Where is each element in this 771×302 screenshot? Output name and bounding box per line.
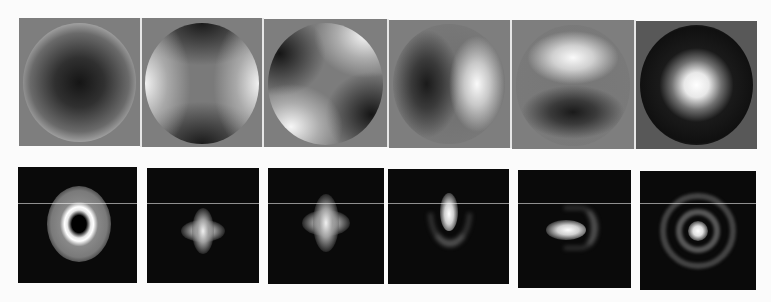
- phase-map-defocus: [19, 18, 140, 146]
- psf-halo: [47, 186, 111, 262]
- psf-core: [440, 193, 458, 231]
- pupil-disk: [268, 23, 383, 145]
- phase-map-spherical: [636, 21, 757, 149]
- psf-astigmatism-0: [147, 168, 259, 283]
- psf-defocus: [18, 167, 137, 283]
- scan-line: [388, 203, 509, 204]
- psf-core: [546, 220, 586, 240]
- psf-coma-y: [388, 169, 509, 284]
- scan-line: [518, 203, 631, 204]
- psf-astigmatism-45: [268, 168, 384, 284]
- phase-map-coma-y: [512, 20, 634, 149]
- phase-map-astigmatism-0: [142, 18, 262, 147]
- scan-line: [640, 203, 756, 204]
- scan-line: [268, 203, 384, 204]
- pupil-disk: [393, 24, 505, 144]
- phase-map-astigmatism-45: [264, 19, 387, 147]
- scan-line: [18, 203, 137, 204]
- pupil-disk: [23, 23, 136, 142]
- pupil-disk: [516, 25, 630, 146]
- psf-coma-x: [518, 170, 631, 288]
- phase-map-coma-x: [389, 20, 510, 148]
- scan-line: [147, 203, 259, 204]
- pupil-disk: [640, 25, 753, 145]
- psf-core: [688, 221, 708, 241]
- psf-cross-vertical: [192, 208, 214, 254]
- psf-spherical: [640, 171, 756, 290]
- pupil-disk: [145, 23, 259, 144]
